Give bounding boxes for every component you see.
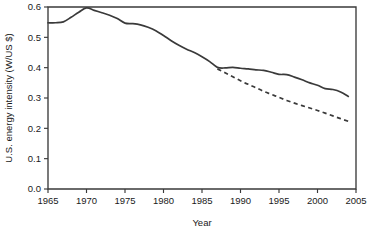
x-tick-label: 1980 [153,195,174,206]
x-tick-label: 2000 [307,195,328,206]
y-tick-label: 0.0 [28,183,41,194]
y-axis-title: U.S. energy intensity (W/US $) [3,33,14,162]
x-tick-label: 1995 [268,195,289,206]
y-tick-label: 0.4 [28,62,41,73]
y-tick-label: 0.1 [28,153,41,164]
axis-box [48,7,356,189]
x-tick-label: 1990 [230,195,251,206]
y-tick-label: 0.5 [28,32,41,43]
x-tick-label: 1985 [191,195,212,206]
series-line-actual [48,8,348,97]
y-tick-label: 0.3 [28,92,41,103]
x-axis-tick-labels: 196519701975198019851990199520002005 [37,195,366,206]
series-line-projected [217,69,348,121]
x-tick-label: 1975 [114,195,135,206]
x-tick-label: 1970 [76,195,97,206]
line-chart: 0.00.10.20.30.40.50.6 196519701975198019… [0,0,371,231]
x-tick-label: 2005 [345,195,366,206]
y-tick-label: 0.6 [28,1,41,12]
figure-container: 0.00.10.20.30.40.50.6 196519701975198019… [0,0,371,231]
y-tick-label: 0.2 [28,123,41,134]
y-axis-tick-labels: 0.00.10.20.30.40.50.6 [28,1,41,194]
x-tick-label: 1965 [37,195,58,206]
plot-frame [48,7,356,189]
x-axis-title: Year [192,217,211,228]
